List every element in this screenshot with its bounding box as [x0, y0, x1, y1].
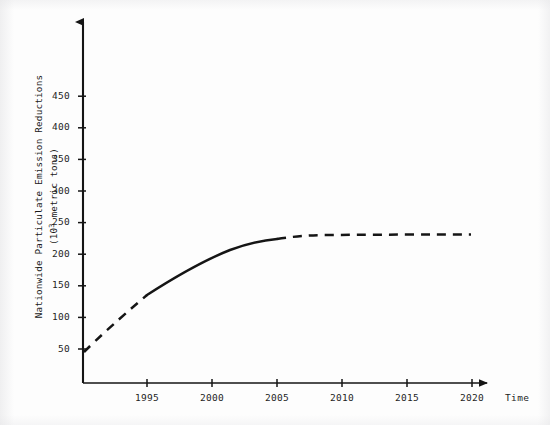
- series-segment-dashed-trailing: [277, 235, 471, 240]
- x-tick-label-2000: 2000: [189, 392, 235, 403]
- y-axis-title-main: Nationwide Particulate Emission Reductio…: [33, 75, 44, 318]
- x-tick-label-1995: 1995: [124, 392, 170, 403]
- x-tick-label-2005: 2005: [254, 392, 300, 403]
- y-tick-label-50: 50: [36, 343, 70, 354]
- y-axis-title-units: (103 metric tons): [47, 148, 58, 245]
- x-tick-label-2020: 2020: [449, 392, 495, 403]
- x-axis-title: Time: [505, 392, 529, 403]
- y-axis-units-exponent: 3: [47, 223, 55, 227]
- x-tick-label-2015: 2015: [384, 392, 430, 403]
- x-tick-label-2010: 2010: [319, 392, 365, 403]
- y-axis-units-suffix: metric tons): [47, 148, 58, 223]
- y-axis-title: Nationwide Particulate Emission Reductio…: [33, 72, 60, 322]
- series-segment-dashed-leading: [84, 295, 147, 352]
- chart-plot-area: [0, 0, 550, 425]
- series-segment-solid: [147, 239, 277, 295]
- y-axis-units-prefix: (10: [47, 228, 58, 245]
- chart-figure: 50 100 150 200 250 300 350 400 450 1995 …: [0, 0, 550, 425]
